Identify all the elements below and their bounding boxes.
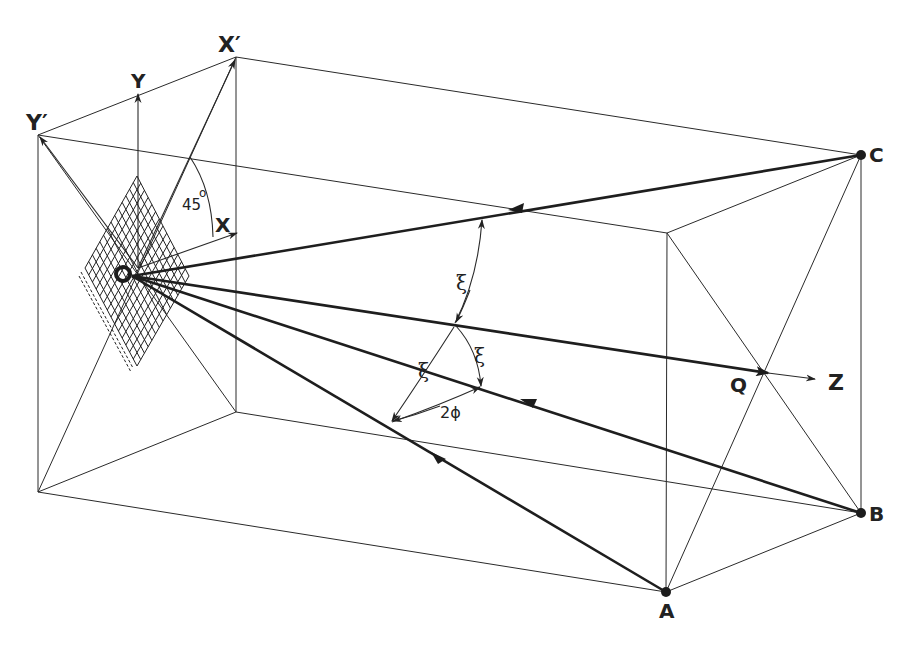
grid-line	[122, 247, 174, 338]
label-y: Y	[130, 69, 146, 93]
label-x: X	[215, 213, 231, 237]
arrowhead-ray-c	[508, 203, 524, 213]
edge-xprime-c	[236, 57, 861, 155]
label-xi-left: ξ	[418, 359, 429, 383]
ray-c-to-o	[132, 155, 861, 276]
grid-edge-dashed	[79, 272, 133, 372]
angle-arcs	[392, 220, 482, 422]
point-b-marker	[856, 508, 866, 518]
rays	[132, 155, 861, 592]
y-prime-axis	[40, 137, 138, 268]
edge-inner-top-a	[666, 233, 667, 592]
edge-inner-bottom-b	[236, 412, 861, 513]
label-b: B	[869, 502, 884, 526]
detector-grid	[79, 176, 189, 372]
label-q: Q	[730, 373, 747, 397]
ray-a-to-o	[132, 276, 666, 592]
box-geometry-diagram: X′ Y Y′ X 45 o C B A Q Z ξ ξ ξ 2ϕ	[0, 0, 910, 646]
z-axis-ray	[132, 276, 768, 373]
point-c-marker	[856, 150, 866, 160]
point-a-marker	[661, 587, 671, 597]
edge-a-b	[666, 513, 861, 592]
label-xi-top: ξ	[456, 271, 467, 295]
grid-line	[100, 242, 152, 341]
x-axis	[138, 233, 237, 268]
label-c: C	[869, 143, 884, 167]
label-z: Z	[828, 370, 844, 395]
grid-line	[85, 268, 137, 366]
label-y-prime: Y′	[25, 110, 48, 135]
label-x-prime: X′	[218, 32, 241, 57]
label-two-phi: 2ϕ	[440, 403, 461, 422]
arrowhead-ray-a	[431, 452, 446, 464]
z-axis-extension	[768, 373, 815, 379]
edge-front-bottom	[38, 412, 236, 492]
labels: X′ Y Y′ X 45 o C B A Q Z ξ ξ ξ 2ϕ	[25, 32, 884, 623]
two-phi-arc	[392, 387, 480, 422]
label-a: A	[659, 599, 675, 623]
label-xi-right: ξ	[474, 344, 485, 368]
grid-line	[137, 276, 189, 366]
ray-b-to-o	[132, 276, 861, 513]
label-degree: o	[199, 186, 206, 200]
edge-bottom-a	[38, 492, 666, 592]
